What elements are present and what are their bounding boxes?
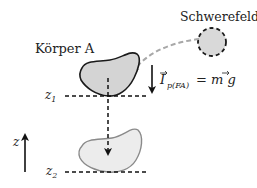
diagram-canvas: Schwerefeld Körper A I p(FA) = m g z1 z2…	[0, 0, 257, 188]
z2-label: z2	[45, 164, 57, 180]
field-label: Schwerefeld	[180, 9, 257, 24]
z1-label: z1	[44, 88, 56, 104]
body-label: Körper A	[35, 41, 95, 56]
field-link-arrow	[134, 39, 199, 70]
z-axis-label: z	[12, 135, 20, 149]
force-formula: I p(FA) = m g	[159, 71, 236, 90]
force-symbol: I	[159, 72, 166, 87]
force-subscript: p(FA)	[167, 81, 189, 90]
gravity-field-circle	[198, 28, 226, 56]
body-a-upper	[80, 53, 139, 96]
force-rhs: = m g	[196, 72, 236, 87]
body-a-lower	[79, 129, 142, 172]
